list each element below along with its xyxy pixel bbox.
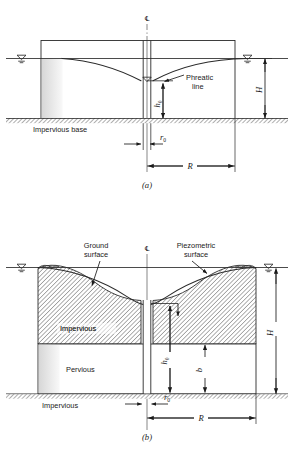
well-bore-fill-b — [143, 300, 151, 394]
panel-a: ℄ — [6, 14, 288, 190]
H-label-a: H — [254, 86, 264, 94]
h0-label-a: h0 — [152, 100, 163, 107]
phreatic-leader-a — [165, 75, 185, 82]
impervious-base-hatch-a — [6, 119, 288, 123]
impervious-base-label-b: Impervious — [42, 401, 78, 410]
caption-a: (a) — [142, 180, 152, 190]
piezometric-surface-label-l2: surface — [184, 250, 208, 259]
ground-surface-label-l1: Ground — [84, 241, 109, 250]
phreatic-curve-left-a — [62, 58, 141, 80]
R-label-a: R — [186, 161, 193, 171]
phreatic-line-label-l2: line — [192, 82, 204, 91]
shaded-band-b — [39, 345, 60, 394]
centerline-symbol-b: ℄ — [144, 244, 150, 253]
pervious-layer-label-b: Pervious — [66, 365, 95, 374]
impervious-layer-right-b — [153, 265, 256, 344]
water-table-triangle-right-b — [264, 264, 273, 272]
impervious-layer-label-b-text: Impervious — [60, 324, 96, 333]
phreatic-line-label-l1: Phreatic — [186, 73, 213, 82]
shaded-band-a — [42, 59, 63, 119]
impervious-base-hatch-b — [6, 394, 288, 398]
caption-b: (b) — [142, 432, 152, 442]
water-table-triangle-left-b — [17, 264, 26, 272]
water-table-triangle-left-a — [17, 55, 26, 63]
b-label-b: b — [194, 367, 204, 372]
impervious-base-label-a: Impervious base — [33, 125, 87, 134]
panel-b: ℄ — [6, 241, 288, 442]
r0-label-a: r0 — [160, 132, 166, 143]
figure-root: ℄ — [0, 0, 294, 450]
ground-surface-label-l2: surface — [84, 250, 108, 259]
piezometric-surface-label-l1: Piezometric — [177, 241, 216, 250]
centerline-symbol-a: ℄ — [144, 14, 150, 23]
R-label-b: R — [197, 413, 204, 423]
H-label-b: H — [265, 329, 275, 337]
